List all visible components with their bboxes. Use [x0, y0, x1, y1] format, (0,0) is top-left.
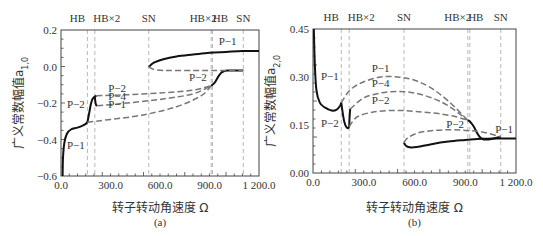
series-line-unstable [350, 91, 468, 120]
bifurcation-label: SN [142, 12, 156, 24]
curve-label: P−2 [446, 118, 464, 130]
y-tick-label: 0.45 [290, 23, 310, 35]
series-line-stable [211, 70, 243, 85]
y-axis-title: 广义常数幅值a2,0 [263, 55, 282, 147]
x-tick-label: 900.0 [453, 176, 478, 188]
curve-label: P−2 [321, 117, 339, 129]
figure: HBHB×2SNHB×2HBSN0.0300.0600.0900.01 200.… [0, 0, 543, 236]
curve-label: P−2 [67, 98, 85, 110]
x-tick-label: 900.0 [197, 179, 222, 191]
series-line-stable [404, 138, 516, 147]
bifurcation-label: SN [236, 12, 250, 24]
chart-panel-a: HBHB×2SNHB×2HBSN0.0300.0600.0900.01 200.… [11, 12, 276, 229]
curve-label: P−2 [372, 94, 390, 106]
curve-label: P−4 [372, 77, 390, 89]
x-tick-label: 600.0 [402, 176, 427, 188]
series-line-stable [95, 97, 98, 106]
bifurcation-label: HB×2 [93, 12, 120, 24]
curve-label: P−1 [108, 98, 126, 110]
y-axis-title: 广义常数幅值a1,0 [11, 57, 30, 149]
x-axis-title: 转子转动角速度 Ω [112, 200, 209, 215]
series-line-unstable [341, 77, 468, 121]
bifurcation-label: SN [494, 11, 508, 23]
series-line-unstable [149, 67, 244, 71]
chart-panel-b: HBHB×2SNHB×2HBSN0.0300.0600.0900.01 200.… [263, 11, 533, 229]
panel-caption: (a) [154, 216, 167, 229]
series-line-stable [341, 103, 349, 129]
x-tick-label: 1 200.0 [500, 176, 534, 188]
curve-label: P−1 [495, 123, 513, 135]
x-axis-title: 转子转动角速度 Ω [366, 200, 463, 215]
x-tick-label: 300.0 [351, 176, 376, 188]
bifurcation-label: HB [70, 12, 85, 24]
x-tick-label: 300.0 [98, 179, 123, 191]
y-tick-label: −0.2 [37, 97, 57, 109]
y-tick-label: 0.0 [43, 61, 57, 73]
curve-label: P−1 [321, 70, 339, 82]
x-tick-label: 600.0 [148, 179, 173, 191]
plot-frame [313, 29, 516, 173]
bifurcation-label: HB×2 [348, 11, 375, 23]
curve-label: P−1 [372, 62, 390, 74]
curve-label: P−1 [219, 35, 237, 47]
y-tick-label: 0.15 [290, 119, 310, 131]
bifurcation-label: HB [324, 11, 339, 23]
series-line-unstable [87, 86, 211, 123]
curve-label: P−1 [67, 139, 85, 151]
curve-label: P−2 [189, 71, 207, 83]
bifurcation-label: HB [468, 11, 483, 23]
bifurcation-label: HB [213, 12, 228, 24]
bifurcation-label: SN [397, 11, 411, 23]
y-tick-label: 0.00 [290, 167, 310, 179]
panel-caption: (b) [408, 216, 421, 229]
y-tick-label: −0.6 [37, 170, 57, 182]
series-line-stable [149, 51, 259, 67]
y-tick-label: 0.30 [290, 71, 310, 83]
y-tick-label: −0.4 [37, 134, 57, 146]
y-tick-label: 0.2 [43, 24, 57, 36]
x-tick-label: 1 200.0 [243, 179, 277, 191]
